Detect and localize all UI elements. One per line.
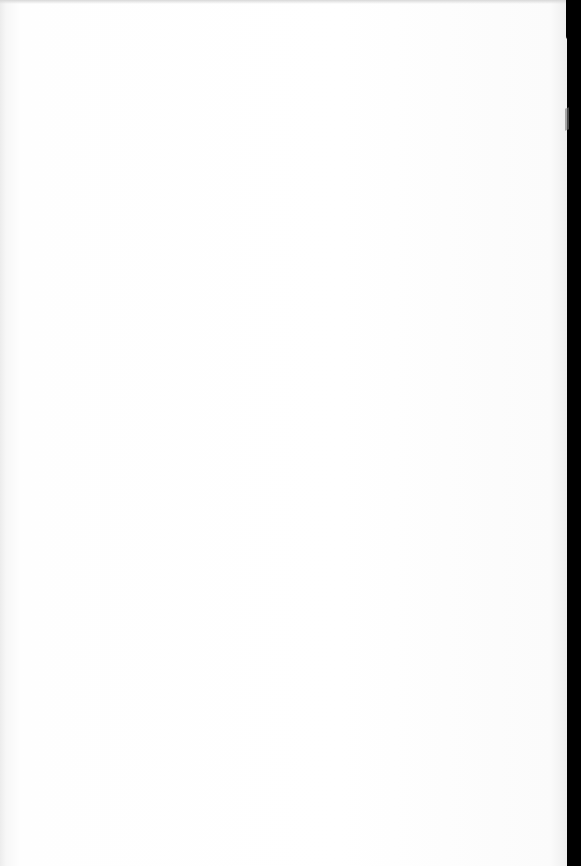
scan-border-notch (566, 0, 572, 40)
scan-border-right (567, 0, 581, 866)
blank-document-page (0, 0, 567, 866)
page-edge-tear (565, 107, 569, 130)
scan-top-shadow (0, 0, 567, 4)
